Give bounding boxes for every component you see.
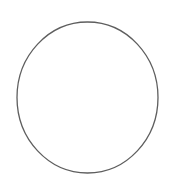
figure-canvas (0, 0, 174, 182)
canvas-background (0, 0, 174, 182)
circle-diagram-svg (0, 0, 174, 182)
